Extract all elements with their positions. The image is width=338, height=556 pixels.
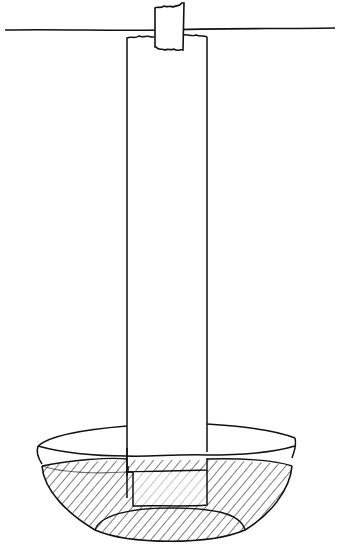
chromatography-drawing bbox=[0, 0, 338, 556]
illustration-canvas: Hand-drawn illustration of a paper strip… bbox=[0, 0, 338, 556]
tape bbox=[155, 3, 184, 50]
paper-strip bbox=[127, 35, 207, 498]
